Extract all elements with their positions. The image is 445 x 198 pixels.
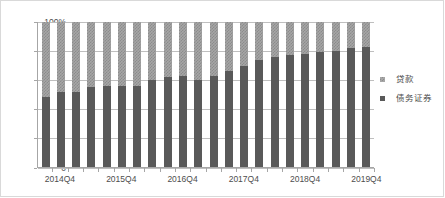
bar-segment-loans xyxy=(362,22,370,47)
bar-segment-debt-securities xyxy=(118,86,126,167)
bar-segment-debt-securities xyxy=(42,97,50,167)
bar-column[interactable] xyxy=(164,22,172,167)
bar-column[interactable] xyxy=(133,22,141,167)
bar-column[interactable] xyxy=(103,22,111,167)
x-axis-tick-label: 2017Q4 xyxy=(229,175,259,184)
x-axis-tick-mark xyxy=(251,168,252,172)
x-axis-tick-mark xyxy=(359,168,360,172)
bar-column[interactable] xyxy=(255,22,263,167)
bar-segment-debt-securities xyxy=(164,77,172,167)
bar-column[interactable] xyxy=(316,22,324,167)
bar-segment-loans xyxy=(210,22,218,76)
bar-segment-loans xyxy=(225,22,233,71)
bar-column[interactable] xyxy=(225,22,233,167)
bar-segment-loans xyxy=(316,22,324,52)
bar-segment-debt-securities xyxy=(57,92,65,167)
bar-column[interactable] xyxy=(240,22,248,167)
bar-column[interactable] xyxy=(194,22,202,167)
x-axis-tick-mark xyxy=(328,168,329,172)
bar-column[interactable] xyxy=(347,22,355,167)
bar-column[interactable] xyxy=(362,22,370,167)
x-axis-tick-mark xyxy=(68,168,69,172)
bar-column[interactable] xyxy=(286,22,294,167)
bar-segment-loans xyxy=(194,22,202,80)
x-axis-tick-label: 2019Q4 xyxy=(351,175,381,184)
bar-column[interactable] xyxy=(57,22,65,167)
x-axis-tick-mark xyxy=(190,168,191,172)
chart-legend: 贷款 债务证券 xyxy=(380,74,442,112)
bar-column[interactable] xyxy=(271,22,279,167)
x-axis-tick-mark xyxy=(297,168,298,172)
bar-column[interactable] xyxy=(148,22,156,167)
bar-segment-loans xyxy=(103,22,111,86)
bar-column[interactable] xyxy=(210,22,218,167)
x-axis-tick-label: 2016Q4 xyxy=(167,175,197,184)
bar-segment-loans xyxy=(133,22,141,86)
bar-series-group xyxy=(38,22,374,167)
bar-segment-debt-securities xyxy=(133,86,141,167)
bar-segment-debt-securities xyxy=(255,60,263,167)
bar-segment-debt-securities xyxy=(210,76,218,167)
bar-segment-loans xyxy=(42,22,50,97)
x-axis-tick-mark xyxy=(343,168,344,172)
legend-label-debt-securities: 债务证券 xyxy=(396,94,432,103)
chart-container: 020%40%60%80%100% 2014Q42015Q42016Q42017… xyxy=(0,0,444,197)
bar-segment-debt-securities xyxy=(72,92,80,167)
bar-column[interactable] xyxy=(301,22,309,167)
bar-segment-debt-securities xyxy=(194,80,202,167)
x-axis-tick-mark xyxy=(236,168,237,172)
x-axis-tick-mark xyxy=(374,168,375,172)
bar-column[interactable] xyxy=(72,22,80,167)
bar-segment-debt-securities xyxy=(362,47,370,167)
x-axis-tick-mark xyxy=(160,168,161,172)
bar-segment-loans xyxy=(164,22,172,77)
bar-segment-loans xyxy=(347,22,355,48)
x-axis-tick-mark xyxy=(83,168,84,172)
bar-segment-loans xyxy=(87,22,95,87)
bar-segment-loans xyxy=(179,22,187,76)
plot-area xyxy=(37,22,374,168)
bar-segment-loans xyxy=(148,22,156,80)
x-axis-tick-mark xyxy=(282,168,283,172)
bar-segment-debt-securities xyxy=(179,76,187,167)
bar-segment-loans xyxy=(240,22,248,66)
x-axis-tick-mark xyxy=(129,168,130,172)
bar-segment-debt-securities xyxy=(301,54,309,167)
bar-segment-debt-securities xyxy=(148,80,156,167)
bar-segment-loans xyxy=(118,22,126,86)
x-axis-tick-mark xyxy=(144,168,145,172)
bar-segment-loans xyxy=(332,22,340,51)
bar-segment-debt-securities xyxy=(271,57,279,167)
bar-segment-debt-securities xyxy=(87,87,95,167)
bar-segment-loans xyxy=(271,22,279,57)
x-axis-tick-mark xyxy=(175,168,176,172)
bar-segment-loans xyxy=(72,22,80,92)
bar-column[interactable] xyxy=(118,22,126,167)
legend-item-loans[interactable]: 贷款 xyxy=(380,74,442,84)
x-axis-tick-mark xyxy=(114,168,115,172)
bar-segment-debt-securities xyxy=(316,52,324,167)
bar-column[interactable] xyxy=(87,22,95,167)
x-axis-tick-mark xyxy=(98,168,99,172)
bar-segment-debt-securities xyxy=(240,66,248,168)
x-axis-tick-mark xyxy=(267,168,268,172)
legend-item-debt-securities[interactable]: 债务证券 xyxy=(380,93,442,103)
bar-column[interactable] xyxy=(332,22,340,167)
bar-segment-debt-securities xyxy=(332,51,340,167)
bar-segment-debt-securities xyxy=(103,86,111,167)
bar-column[interactable] xyxy=(179,22,187,167)
x-axis-tick-label: 2018Q4 xyxy=(290,175,320,184)
bar-segment-loans xyxy=(286,22,294,55)
x-axis-tick-label: 2014Q4 xyxy=(45,175,75,184)
x-axis-tick-mark xyxy=(313,168,314,172)
bar-segment-loans xyxy=(255,22,263,60)
x-axis-tick-label: 2015Q4 xyxy=(106,175,136,184)
x-axis-tick-mark xyxy=(206,168,207,172)
legend-swatch-loans-icon xyxy=(380,77,385,82)
bar-segment-debt-securities xyxy=(286,55,294,167)
bar-segment-debt-securities xyxy=(347,48,355,167)
legend-swatch-debt-securities-icon xyxy=(380,96,385,101)
bar-segment-loans xyxy=(301,22,309,54)
legend-label-loans: 贷款 xyxy=(396,75,414,84)
bar-column[interactable] xyxy=(42,22,50,167)
